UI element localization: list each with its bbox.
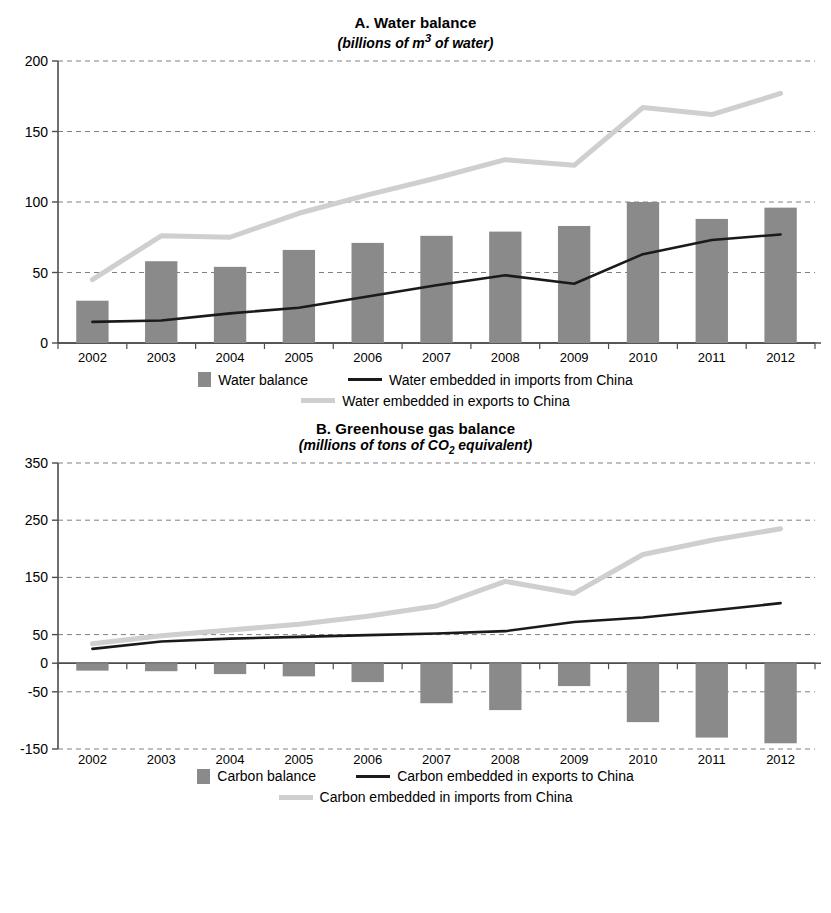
panel-b-plot: -150-50050150250350200220032004200520062… bbox=[0, 455, 831, 767]
legend-label-water-imports: Water embedded in imports from China bbox=[389, 371, 633, 389]
line-series bbox=[92, 529, 780, 644]
bar bbox=[76, 664, 108, 671]
x-axis-tick-label: 2010 bbox=[628, 752, 657, 767]
bar bbox=[283, 250, 315, 343]
legend-label-carbon-imports: Carbon embedded in imports from China bbox=[320, 788, 573, 806]
x-axis-tick-label: 2005 bbox=[284, 752, 313, 767]
x-axis-tick-label: 2009 bbox=[560, 752, 589, 767]
panel-a-title: A. Water balance bbox=[0, 0, 831, 31]
y-axis-tick-label: 150 bbox=[25, 570, 49, 586]
panel-a-legend: Water balance Water embedded in imports … bbox=[0, 371, 831, 410]
y-axis-tick-label: 250 bbox=[25, 513, 49, 529]
x-axis-tick-label: 2003 bbox=[147, 350, 176, 365]
light-line-swatch-icon bbox=[301, 398, 335, 403]
y-axis-tick-label: 200 bbox=[25, 53, 49, 69]
y-axis-tick-label: 150 bbox=[25, 123, 49, 139]
legend-item-water-imports: Water embedded in imports from China bbox=[348, 371, 633, 389]
water-balance-chart: 0501001502002002200320042005200620072008… bbox=[0, 51, 831, 371]
panel-a-subtitle-pre: (billions of m bbox=[338, 35, 425, 51]
legend-label-water-balance: Water balance bbox=[218, 371, 308, 389]
bar bbox=[764, 207, 796, 342]
legend-item-carbon-balance: Carbon balance bbox=[197, 767, 316, 785]
panel-b-subtitle-post: equivalent) bbox=[454, 437, 532, 453]
bar-swatch-icon bbox=[198, 372, 211, 387]
panel-b-title: B. Greenhouse gas balance bbox=[0, 410, 831, 437]
legend-item-water-balance: Water balance bbox=[198, 371, 308, 389]
x-axis-tick-label: 2006 bbox=[353, 350, 382, 365]
bar bbox=[214, 267, 246, 343]
light-line-swatch-icon bbox=[279, 795, 313, 800]
x-axis-tick-label: 2004 bbox=[216, 752, 245, 767]
bar bbox=[420, 235, 452, 342]
x-axis-tick-label: 2006 bbox=[353, 752, 382, 767]
bar bbox=[764, 664, 796, 744]
bar bbox=[696, 664, 728, 738]
y-axis-tick-label: 100 bbox=[25, 194, 49, 210]
bar bbox=[558, 664, 590, 687]
x-axis-tick-label: 2007 bbox=[422, 350, 451, 365]
dark-line-swatch-icon bbox=[348, 378, 382, 381]
bar bbox=[214, 664, 246, 675]
panel-a-subtitle-post: of water) bbox=[431, 35, 493, 51]
panel-b-legend: Carbon balance Carbon embedded in export… bbox=[0, 767, 831, 806]
bar bbox=[489, 664, 521, 711]
x-axis-tick-label: 2008 bbox=[491, 350, 520, 365]
x-axis-tick-label: 2004 bbox=[216, 350, 245, 365]
bar bbox=[489, 231, 521, 342]
panel-b-subtitle-pre: (millions of tons of CO bbox=[299, 437, 449, 453]
legend-item-carbon-exports: Carbon embedded in exports to China bbox=[356, 767, 634, 785]
bar bbox=[627, 202, 659, 343]
bar bbox=[352, 664, 384, 683]
bar bbox=[145, 664, 177, 672]
legend-label-carbon-balance: Carbon balance bbox=[217, 767, 316, 785]
bar bbox=[145, 261, 177, 343]
legend-label-carbon-exports: Carbon embedded in exports to China bbox=[397, 767, 634, 785]
panel-a-plot: 0501001502002002200320042005200620072008… bbox=[0, 51, 831, 371]
bar bbox=[420, 664, 452, 704]
bar bbox=[627, 664, 659, 723]
bar bbox=[696, 219, 728, 343]
y-axis-tick-label: -50 bbox=[28, 684, 48, 700]
y-axis-tick-label: 350 bbox=[25, 455, 49, 471]
y-axis-tick-label: 50 bbox=[32, 264, 48, 280]
bar-swatch-icon bbox=[197, 769, 210, 784]
x-axis-tick-label: 2005 bbox=[284, 350, 313, 365]
legend-item-water-exports: Water embedded in exports to China bbox=[301, 392, 570, 410]
panel-greenhouse-gas-balance: B. Greenhouse gas balance (millions of t… bbox=[0, 410, 831, 807]
x-axis-tick-label: 2011 bbox=[698, 752, 726, 767]
legend-label-water-exports: Water embedded in exports to China bbox=[342, 392, 570, 410]
line-series bbox=[92, 604, 780, 650]
x-axis-tick-label: 2011 bbox=[698, 350, 726, 365]
x-axis-tick-label: 2010 bbox=[628, 350, 657, 365]
panel-water-balance: A. Water balance (billions of m3 of wate… bbox=[0, 0, 831, 410]
x-axis-tick-label: 2003 bbox=[147, 752, 176, 767]
y-axis-tick-label: 0 bbox=[40, 656, 48, 672]
x-axis-tick-label: 2009 bbox=[560, 350, 589, 365]
greenhouse-gas-chart: -150-50050150250350200220032004200520062… bbox=[0, 455, 831, 767]
dark-line-swatch-icon bbox=[356, 775, 390, 778]
panel-a-subtitle: (billions of m3 of water) bbox=[0, 31, 831, 51]
x-axis-tick-label: 2007 bbox=[422, 752, 451, 767]
y-axis-tick-label: 0 bbox=[40, 335, 48, 351]
x-axis-tick-label: 2012 bbox=[766, 350, 795, 365]
x-axis-tick-label: 2002 bbox=[78, 752, 107, 767]
bar bbox=[352, 243, 384, 343]
panel-b-subtitle: (millions of tons of CO2 equivalent) bbox=[0, 437, 831, 456]
x-axis-tick-label: 2002 bbox=[78, 350, 107, 365]
x-axis-tick-label: 2008 bbox=[491, 752, 520, 767]
bar bbox=[283, 664, 315, 677]
y-axis-tick-label: -150 bbox=[20, 741, 48, 757]
y-axis-tick-label: 50 bbox=[32, 627, 48, 643]
legend-item-carbon-imports: Carbon embedded in imports from China bbox=[279, 788, 573, 806]
x-axis-tick-label: 2012 bbox=[766, 752, 795, 767]
